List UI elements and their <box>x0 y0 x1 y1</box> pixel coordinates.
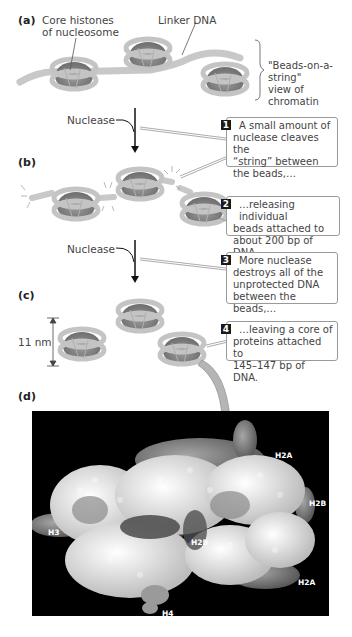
step-4-callout: 4 …leaving a core of proteins attached t… <box>226 321 338 361</box>
step-3-text-line4: between the beads,… <box>233 291 333 315</box>
step-3-badge: 3 <box>221 255 231 265</box>
step-1-text-line1: A small amount of <box>233 120 333 132</box>
step-1-callout: 1 A small amount of nuclease cleaves the… <box>226 117 338 167</box>
step-1-text-line3: “string” between <box>233 156 333 168</box>
panel-label-a: (a) <box>18 14 35 27</box>
histone-label-h2b-right: H2B <box>309 499 326 508</box>
histone-label-h3: H3 <box>48 528 60 537</box>
histone-label-h2a-bottom: H2A <box>298 578 315 587</box>
histone-label-h4: H4 <box>162 609 174 618</box>
step-4-badge: 4 <box>221 324 231 334</box>
beads-on-string <box>20 39 247 95</box>
step-4-text-line3: 145–147 bp of DNA. <box>233 360 333 384</box>
brace <box>255 40 264 100</box>
nucleosome-structure <box>30 411 329 616</box>
panel-label-d: (d) <box>18 390 36 403</box>
step-2-badge: 2 <box>221 199 231 209</box>
core-histones-label-line1: Core histones <box>42 14 119 26</box>
step-2-callout: 2 …releasing individual beads attached t… <box>226 196 340 236</box>
step-1-text-line4: the beads,… <box>233 168 333 180</box>
nuclease-label-2: Nuclease <box>67 243 115 255</box>
panel-label-c: (c) <box>18 289 35 302</box>
step-3-text-line2: destroys all of the <box>233 267 333 279</box>
step-4-text-line1: …leaving a core of <box>233 324 333 336</box>
view-label-line1: "Beads-on-a-string" <box>268 60 352 84</box>
histone-label-h2b-center: H2B <box>191 538 208 547</box>
step-2-text-line1: …releasing individual <box>233 199 335 223</box>
core-particles <box>60 301 204 365</box>
step-2-text-line2: beads attached to <box>233 223 335 235</box>
panel-label-b: (b) <box>18 156 36 169</box>
step-1-badge: 1 <box>221 120 231 130</box>
step-3-text-line1: More nuclease <box>233 255 333 267</box>
beads-on-string-label: "Beads-on-a-string" view of chromatin <box>268 60 352 108</box>
dimension-label: 11 nm <box>18 336 52 348</box>
nuclease-label-1: Nuclease <box>67 114 115 126</box>
step-1-text-line2: nuclease cleaves the <box>233 132 333 156</box>
core-histones-label-line2: of nucleosome <box>42 26 119 38</box>
step-4-text-line2: proteins attached to <box>233 336 333 360</box>
view-label-line2: view of chromatin <box>268 84 352 108</box>
core-histones-label: Core histones of nucleosome <box>42 14 119 38</box>
nuclease-arrow-2 <box>116 240 139 283</box>
histone-label-h2a-top: H2A <box>275 451 292 460</box>
nuclease-arrow-1 <box>116 108 139 153</box>
cleaved-beads <box>21 166 226 225</box>
step-3-callout: 3 More nuclease destroys all of the unpr… <box>226 252 338 304</box>
step-3-text-line3: unprotected DNA <box>233 279 333 291</box>
linker-dna-label: Linker DNA <box>158 14 216 26</box>
